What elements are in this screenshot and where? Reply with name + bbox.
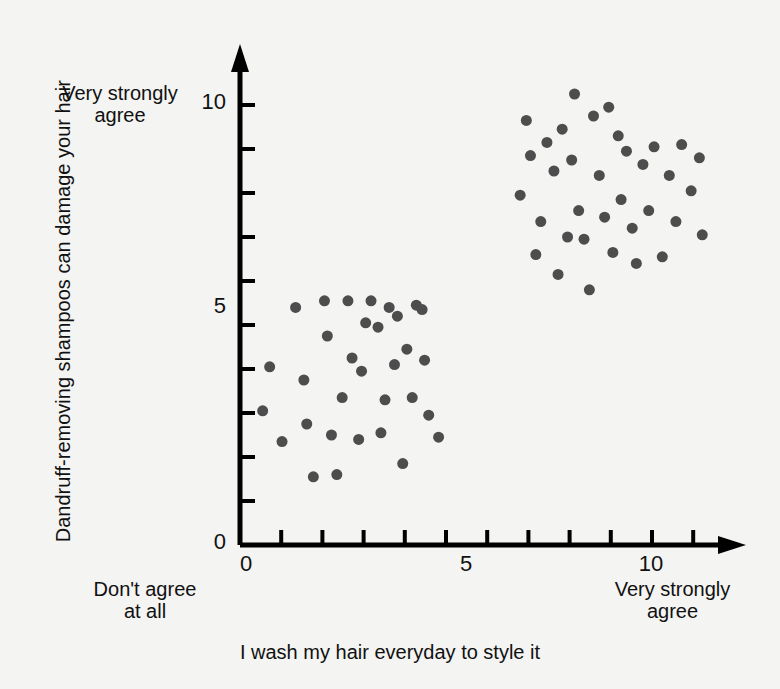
data-point [366,295,377,306]
data-point [557,124,568,135]
data-point [670,216,681,227]
data-point [423,410,434,421]
data-point [631,258,642,269]
data-point [525,150,536,161]
data-point [694,152,705,163]
data-point [407,392,418,403]
data-point [599,212,610,223]
y-tick-label-5: 5 [186,294,226,319]
data-point [643,205,654,216]
data-point [649,141,660,152]
data-point [264,361,275,372]
data-point [584,284,595,295]
data-points-group [257,89,708,483]
data-point [541,137,552,148]
data-point [566,155,577,166]
y-axis-top-anchor-label: Very strongly agree [60,82,180,127]
x-tick-label-5: 5 [446,552,486,577]
data-point [290,302,301,313]
y-axis-title: Dandruff-removing shampoos can damage yo… [52,76,74,546]
data-point [375,427,386,438]
data-point [515,190,526,201]
data-point [697,229,708,240]
scatter-plot-figure: 10 5 0 0 5 10 Very strongly agree Don't … [0,0,780,689]
data-point [342,295,353,306]
data-point [664,170,675,181]
data-point [588,111,599,122]
data-point [433,432,444,443]
data-point [384,302,395,313]
y-axis-arrow-icon [231,44,249,72]
data-point [298,375,309,386]
data-point [322,331,333,342]
data-point [419,355,430,366]
data-point [326,430,337,441]
data-point [535,216,546,227]
x-axis-arrow-icon [718,536,746,554]
x-tick-label-10: 10 [631,552,671,577]
data-point [353,434,364,445]
data-point [277,436,288,447]
data-point [301,419,312,430]
data-point [594,170,605,181]
data-point [603,102,614,113]
data-point [380,394,391,405]
data-point [548,166,559,177]
data-point [686,185,697,196]
data-point [389,359,400,370]
data-point [257,405,268,416]
data-point [569,89,580,100]
data-point [417,304,428,315]
data-point [616,194,627,205]
data-point [657,251,668,262]
x-tick-label-0: 0 [226,552,266,577]
data-point [621,146,632,157]
data-point [553,269,564,280]
data-point [562,232,573,243]
x-axis-right-anchor-label: Very strongly agree [600,578,745,623]
data-point [319,295,330,306]
data-point [521,115,532,126]
data-point [397,458,408,469]
data-point [627,223,638,234]
data-point [530,249,541,260]
data-point [347,353,358,364]
data-point [337,392,348,403]
y-tick-label-0: 0 [186,530,226,555]
data-point [392,311,403,322]
data-point [607,247,618,258]
data-point [676,139,687,150]
data-point [613,130,624,141]
data-point [356,366,367,377]
data-point [360,317,371,328]
x-axis-left-anchor-label: Don't agree at all [75,578,215,623]
data-point [373,322,384,333]
data-point [637,159,648,170]
x-axis-title: I wash my hair everyday to style it [190,641,590,663]
data-point [579,234,590,245]
data-point [573,205,584,216]
data-point [331,469,342,480]
data-point [308,471,319,482]
y-tick-label-10: 10 [186,90,226,115]
data-point [401,344,412,355]
